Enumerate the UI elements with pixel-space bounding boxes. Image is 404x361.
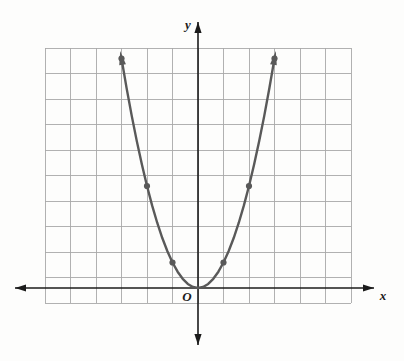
curve-point-marker <box>271 55 277 61</box>
y-axis-label: y <box>183 17 191 32</box>
origin-label: O <box>182 289 192 304</box>
curve-point-marker <box>246 183 252 189</box>
graph-figure: y x O <box>0 0 404 361</box>
curve-point-marker <box>220 259 226 265</box>
curve-point-marker <box>144 183 150 189</box>
curve-point-marker <box>118 55 124 61</box>
coordinate-graph: y x O <box>0 0 404 361</box>
figure-background <box>0 0 404 361</box>
x-axis-label: x <box>379 288 387 303</box>
curve-point-marker <box>169 259 175 265</box>
